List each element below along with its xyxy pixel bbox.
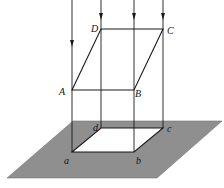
arrow-down-icon xyxy=(132,13,136,20)
parallelogram-ABCD xyxy=(72,29,163,90)
label-C: C xyxy=(167,25,174,36)
label-D: D xyxy=(90,23,99,34)
label-c: c xyxy=(167,123,172,134)
projection-diagram: D C A B d c a b xyxy=(0,0,224,188)
label-a: a xyxy=(64,155,69,166)
arrow-down-icon xyxy=(161,13,165,20)
label-b: b xyxy=(136,155,141,166)
label-A: A xyxy=(58,86,66,97)
arrow-down-icon xyxy=(99,13,103,20)
label-B: B xyxy=(135,88,141,99)
arrow-down-icon xyxy=(70,40,74,47)
